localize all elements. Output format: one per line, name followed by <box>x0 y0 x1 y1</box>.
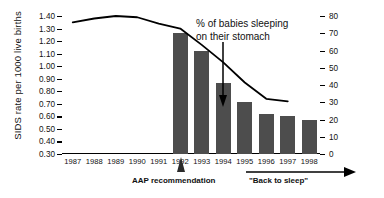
annotation-marks <box>0 0 384 198</box>
callout-arrow-head <box>219 95 227 107</box>
back-to-sleep-label: "Back to sleep" <box>249 176 308 185</box>
back-to-sleep-arrow-head <box>344 167 356 177</box>
aap-recommendation-label: AAP recommendation <box>132 176 215 185</box>
sids-chart: SIDS rate per 1000 live births 1.401.301… <box>0 0 384 198</box>
aap-pointer-triangle <box>177 157 185 172</box>
